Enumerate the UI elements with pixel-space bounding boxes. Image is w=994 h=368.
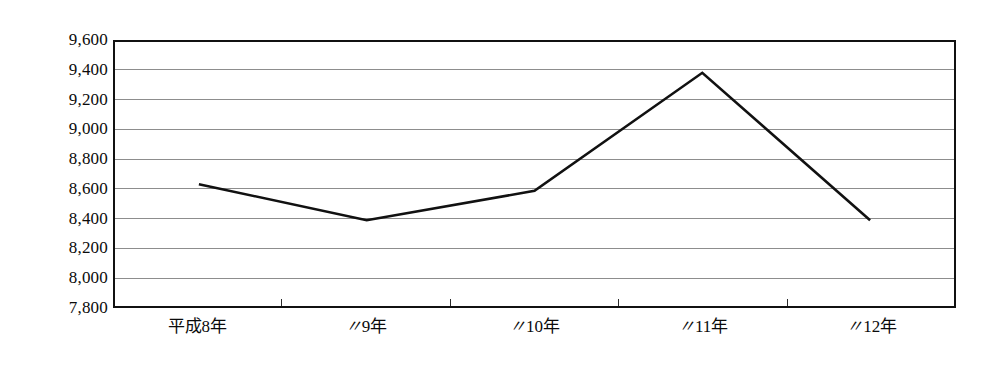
y-axis-tick-label: 7,800 [2, 299, 108, 316]
line-chart: 9,6009,4009,2009,0008,8008,6008,4008,200… [0, 0, 994, 368]
x-axis-tick-label: 〃10年 [509, 316, 560, 338]
y-axis-tick-label: 9,000 [2, 120, 108, 137]
x-axis-tick-label: 〃9年 [345, 316, 388, 338]
x-axis-labels: 平成8年〃9年〃10年〃11年〃12年 [113, 316, 956, 352]
x-label-prefix: 〃 [345, 317, 362, 336]
y-axis-tick-label: 8,000 [2, 269, 108, 286]
y-axis-tick-label: 8,400 [2, 210, 108, 227]
x-axis-tick-label: 〃11年 [678, 316, 728, 338]
x-label-text: 8年 [202, 317, 228, 336]
series-line [199, 73, 870, 220]
y-axis-tick-label: 9,600 [2, 31, 108, 48]
x-label-text: 11年 [695, 317, 728, 336]
y-axis-tick-label: 9,400 [2, 61, 108, 78]
y-axis-tick-label: 8,600 [2, 180, 108, 197]
x-axis-tick-label: 〃12年 [846, 316, 897, 338]
y-axis-tick-label: 8,800 [2, 150, 108, 167]
x-label-text: 12年 [863, 317, 897, 336]
y-axis-tick-label: 9,200 [2, 91, 108, 108]
x-label-prefix: 〃 [678, 317, 695, 336]
x-label-prefix: 平成 [168, 317, 202, 336]
y-axis-tick-label: 8,200 [2, 239, 108, 256]
series-line-layer [115, 42, 954, 306]
x-label-text: 10年 [526, 317, 560, 336]
x-axis-tick-label: 平成8年 [168, 316, 228, 338]
x-label-prefix: 〃 [509, 317, 526, 336]
y-axis-labels: 9,6009,4009,2009,0008,8008,6008,4008,200… [0, 0, 108, 368]
x-label-prefix: 〃 [846, 317, 863, 336]
plot-area [113, 40, 956, 308]
x-label-text: 9年 [362, 317, 388, 336]
